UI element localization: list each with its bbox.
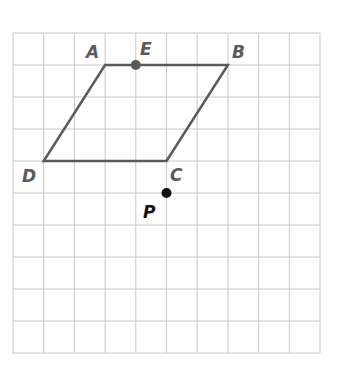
label-p: P xyxy=(143,202,156,222)
label-d: D xyxy=(22,166,36,186)
label-c: C xyxy=(170,165,183,185)
label-a: A xyxy=(84,42,99,62)
label-b: B xyxy=(232,42,245,62)
point-e-dot xyxy=(131,60,141,70)
point-p-dot xyxy=(162,188,172,198)
grid-diagram: A E B D C P xyxy=(0,0,338,371)
label-e: E xyxy=(140,39,152,59)
